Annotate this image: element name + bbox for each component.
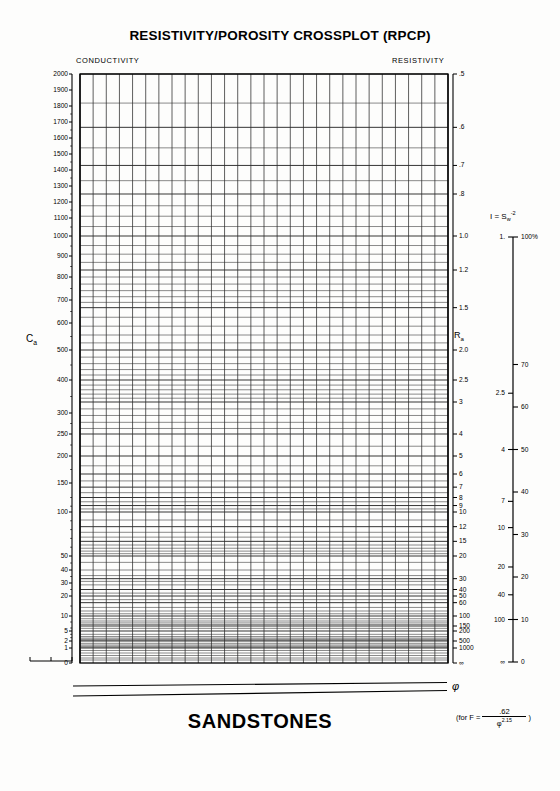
resistivity-tick-label: 10 <box>459 509 466 516</box>
resistivity-tick-label: 100 <box>459 613 470 620</box>
formula-numerator: .62 <box>493 707 515 716</box>
resistivity-tick-label: 30 <box>459 575 466 582</box>
conductivity-tick-label: 900 <box>40 253 68 260</box>
resistivity-index-tick-label: ∞ <box>479 659 505 666</box>
resistivity-tick-label: 4 <box>459 431 463 438</box>
resistivity-tick-label: 3 <box>459 399 463 406</box>
water-saturation-tick-label: 100% <box>521 234 538 241</box>
resistivity-tick-label: 1000 <box>459 645 474 652</box>
formation-factor-formula: (for F = .62 φ2.15 ) <box>456 707 531 728</box>
chart-page: RESISTIVITY/POROSITY CROSSPLOT (RPCP) CO… <box>0 0 560 791</box>
resistivity-tick-label: ∞ <box>459 660 464 667</box>
resistivity-index-tick-label: 7 <box>479 498 505 505</box>
water-saturation-tick-label: 50 <box>521 446 528 453</box>
resistivity-tick-label: 1.5 <box>459 304 468 311</box>
water-saturation-tick-label: 60 <box>521 404 528 411</box>
water-saturation-tick-label: 30 <box>521 531 528 538</box>
conductivity-tick-label: 700 <box>40 297 68 304</box>
resistivity-tick-label: 15 <box>459 538 466 545</box>
resistivity-tick-label: .8 <box>459 191 465 198</box>
conductivity-tick-label: 1000 <box>40 233 68 240</box>
conductivity-tick-label: 1700 <box>40 119 68 126</box>
conductivity-tick-label: 200 <box>40 453 68 460</box>
resistivity-tick-label: 6 <box>459 471 463 478</box>
formula-suffix: ) <box>528 713 531 722</box>
conductivity-tick-label: 1900 <box>40 87 68 94</box>
water-saturation-tick-label: 0 <box>521 659 525 666</box>
resistivity-tick-label: 1.2 <box>459 267 468 274</box>
conductivity-tick-label: 250 <box>40 431 68 438</box>
conductivity-tick-label: 5 <box>40 628 68 635</box>
conductivity-tick-label: 300 <box>40 410 68 417</box>
resistivity-index-tick-label: 40 <box>479 592 505 599</box>
conductivity-tick-label: 1400 <box>40 167 68 174</box>
water-saturation-tick-label: 20 <box>521 574 528 581</box>
resistivity-tick-label: .7 <box>459 162 465 169</box>
conductivity-tick-label: 1800 <box>40 103 68 110</box>
resistivity-tick-label: 7 <box>459 484 463 491</box>
resistivity-tick-label: 200 <box>459 628 470 635</box>
resistivity-tick-label: .5 <box>459 71 465 78</box>
resistivity-tick-label: 1.0 <box>459 233 468 240</box>
conductivity-tick-label: 1500 <box>40 151 68 158</box>
resistivity-tick-label: .6 <box>459 124 465 131</box>
resistivity-index-tick-label: 2.5 <box>479 390 505 397</box>
conductivity-tick-label: 2000 <box>40 71 68 78</box>
scale-ruler <box>0 0 560 791</box>
conductivity-tick-label: 10 <box>40 613 68 620</box>
conductivity-tick-label: 1300 <box>40 183 68 190</box>
resistivity-index-tick-label: 100 <box>479 616 505 623</box>
resistivity-index-tick-label: 1. <box>479 234 505 241</box>
conductivity-tick-label: 1 <box>40 645 68 652</box>
water-saturation-tick-label: 10 <box>521 616 528 623</box>
resistivity-tick-label: 2.0 <box>459 347 468 354</box>
water-saturation-tick-label: 40 <box>521 489 528 496</box>
conductivity-tick-label: 30 <box>40 580 68 587</box>
resistivity-tick-label: 20 <box>459 553 466 560</box>
resistivity-index-tick-label: 10 <box>479 524 505 531</box>
conductivity-tick-label: 400 <box>40 377 68 384</box>
conductivity-tick-label: 150 <box>40 480 68 487</box>
conductivity-tick-label: 1200 <box>40 199 68 206</box>
formula-denominator: φ2.15 <box>497 717 512 728</box>
conductivity-tick-label: 20 <box>40 593 68 600</box>
formula-prefix: (for F = <box>456 713 480 722</box>
water-saturation-tick-label: 70 <box>521 361 528 368</box>
formula-denominator-exponent: 2.15 <box>502 717 512 723</box>
conductivity-tick-label: 50 <box>40 553 68 560</box>
resistivity-tick-label: 8 <box>459 494 463 501</box>
conductivity-tick-label: 800 <box>40 274 68 281</box>
resistivity-tick-label: 60 <box>459 599 466 606</box>
conductivity-tick-label: 40 <box>40 567 68 574</box>
conductivity-tick-label: 1100 <box>40 215 68 222</box>
resistivity-tick-label: 5 <box>459 453 463 460</box>
resistivity-tick-label: 2.5 <box>459 377 468 384</box>
conductivity-tick-label: 600 <box>40 320 68 327</box>
resistivity-index-tick-label: 20 <box>479 564 505 571</box>
conductivity-tick-label: 100 <box>40 509 68 516</box>
resistivity-tick-label: 12 <box>459 523 466 530</box>
footer-title: SANDSTONES <box>120 710 400 733</box>
conductivity-tick-label: 500 <box>40 347 68 354</box>
formula-fraction: .62 φ2.15 <box>482 707 526 728</box>
conductivity-tick-label: 0 <box>40 660 68 667</box>
conductivity-tick-label: 1600 <box>40 135 68 142</box>
resistivity-index-tick-label: 4 <box>479 446 505 453</box>
